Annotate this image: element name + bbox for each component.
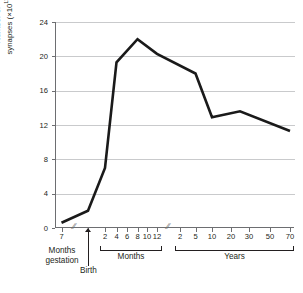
xtick-label-years-20: 20 [225,233,237,241]
birth-arrow-stem [88,232,89,266]
group-label-gestation-line1: Months [49,246,76,255]
group-bracket-months [100,246,162,251]
xtick-label-months-12: 12 [151,233,163,241]
group-label-years: Years [175,252,294,262]
group-label-birth: Birth [80,266,97,275]
group-bracket-years [175,246,294,251]
synapse-density-chart: 24 20 16 12 8 4 0 Number of synapses (×1… [0,0,303,293]
xtick-label-years-5: 5 [190,233,202,241]
group-label-months: Months [101,252,161,262]
group-label-gestation-line2: gestation [45,256,78,265]
xtick-label-years-50: 50 [264,233,276,241]
xtick-label-gestation-7: 7 [56,233,68,241]
xtick-label-years-10: 10 [206,233,218,241]
synapse-curve-path [62,39,291,223]
xtick-label-years-30: 30 [243,233,255,241]
xtick-label-years-70: 70 [284,233,296,241]
xtick-label-months-2: 2 [99,233,111,241]
xtick-label-years-2: 2 [174,233,186,241]
group-label-gestation: Months gestation [38,246,86,266]
